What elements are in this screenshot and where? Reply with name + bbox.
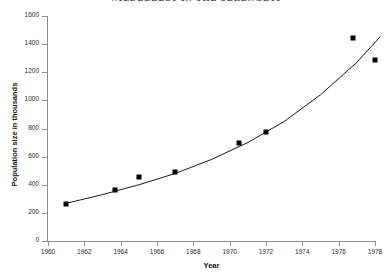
y-axis-title: Population size in thousands (10, 55, 19, 215)
data-point (351, 35, 356, 40)
x-tick-label: 1960 (41, 249, 55, 256)
x-tick-label: 1964 (113, 249, 127, 256)
y-tick-label: 400 (28, 181, 39, 188)
x-tick-label: 1966 (150, 249, 164, 256)
x-tick-mark (121, 241, 122, 246)
y-tick-mark (42, 213, 47, 214)
y-tick-label: 800 (28, 125, 39, 132)
x-tick-label: 1968 (186, 249, 200, 256)
x-tick-mark (375, 241, 376, 246)
y-tick-label: 600 (28, 153, 39, 160)
y-tick-label: 1400 (25, 40, 39, 47)
x-tick-mark (302, 241, 303, 246)
x-tick-mark (193, 241, 194, 246)
x-tick-label: 1974 (295, 249, 309, 256)
x-tick-label: 1978 (368, 249, 382, 256)
x-tick-mark (157, 241, 158, 246)
y-tick-mark (42, 16, 47, 17)
x-tick-label: 1970 (222, 249, 236, 256)
x-tick-mark (84, 241, 85, 246)
y-axis-line (47, 16, 48, 242)
y-tick-label: 1200 (25, 68, 39, 75)
data-point (236, 140, 241, 145)
data-point (64, 202, 69, 207)
data-point (113, 188, 118, 193)
data-point (136, 175, 141, 180)
x-tick-mark (48, 241, 49, 246)
chart-title: WILDEBEEST IN THE SERENGETI (0, 0, 391, 3)
y-tick-label: 0 (35, 237, 39, 244)
x-tick-mark (230, 241, 231, 246)
x-axis-title: Year (47, 261, 376, 270)
y-tick-mark (42, 241, 47, 242)
y-tick-label: 1000 (25, 96, 39, 103)
y-tick-label: 200 (28, 209, 39, 216)
y-tick-mark (42, 44, 47, 45)
data-point (173, 170, 178, 175)
trend-line (0, 0, 391, 276)
data-point (373, 57, 378, 62)
y-tick-mark (42, 157, 47, 158)
x-tick-label: 1976 (331, 249, 345, 256)
y-tick-mark (42, 129, 47, 130)
x-tick-mark (339, 241, 340, 246)
chart-figure: WILDEBEEST IN THE SERENGETI 020040060080… (0, 0, 391, 276)
y-tick-label: 1600 (25, 12, 39, 19)
y-tick-mark (42, 72, 47, 73)
x-axis-line (47, 241, 376, 242)
data-point (264, 130, 269, 135)
y-tick-mark (42, 185, 47, 186)
y-tick-mark (42, 100, 47, 101)
x-tick-label: 1972 (259, 249, 273, 256)
x-tick-label: 1962 (77, 249, 91, 256)
x-tick-mark (266, 241, 267, 246)
